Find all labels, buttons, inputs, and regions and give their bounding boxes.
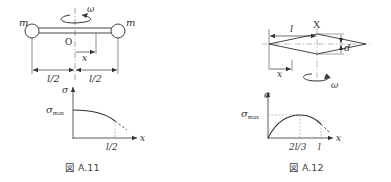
mass-right-label: m: [126, 17, 135, 28]
y-axis-label: σ: [62, 85, 69, 95]
figure-a12: X l d x ω σ x: [241, 19, 372, 173]
stress-graph-a12: σ x σmax 2l/3 l: [241, 90, 341, 152]
rotation-arrow-icon: [61, 13, 91, 23]
sigma-max-label-right: σmax: [241, 108, 260, 120]
figure-canvas: m m ω O x l/2 l/2: [0, 0, 391, 182]
x-tick-peak: 2l/3: [288, 142, 307, 152]
x-axis-label: x: [140, 133, 145, 143]
mass-right: [111, 24, 125, 38]
mass-left-label: m: [19, 17, 28, 28]
x-label-right: x: [277, 69, 282, 79]
omega-label-right: ω: [331, 80, 339, 90]
x-label: x: [82, 53, 87, 63]
x-tick-end: l: [318, 142, 321, 152]
sigma-max-label: σmax: [46, 104, 65, 116]
rotating-rod-diagram: m m ω O x l/2 l/2: [19, 4, 135, 84]
thickness-label: d: [344, 42, 350, 53]
x-tick-half-length: l/2: [106, 142, 118, 152]
y-axis-label-right: σ: [264, 90, 271, 100]
omega-label: ω: [87, 4, 95, 14]
x-axis-label-right: x: [336, 133, 341, 143]
caption-a12: 図 A.12: [289, 162, 323, 173]
caption-a11: 図 A.11: [65, 162, 99, 173]
section-label: X: [313, 19, 321, 30]
length-label: l: [290, 23, 293, 34]
half-length-left-label: l/2: [47, 73, 60, 84]
rotation-arrow-icon: [304, 74, 331, 81]
stress-curve: [73, 110, 115, 121]
stress-graph-a11: σ x σmax l/2: [46, 85, 145, 152]
stress-curve-right: [268, 115, 321, 138]
half-length-right-label: l/2: [89, 73, 102, 84]
rotating-rhombus-diagram: X l d x ω: [262, 19, 372, 90]
origin-label: O: [65, 36, 72, 47]
figure-a11: m m ω O x l/2 l/2: [19, 4, 145, 173]
